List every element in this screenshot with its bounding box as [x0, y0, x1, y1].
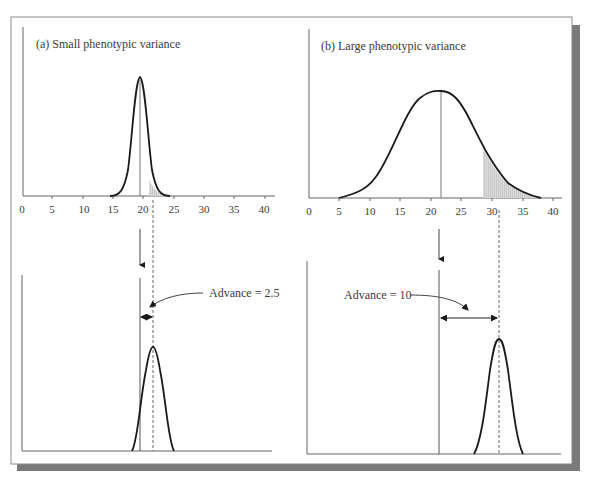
panel-b-title: (b) Large phenotypic variance	[321, 39, 466, 53]
svg-text:20: 20	[426, 205, 438, 217]
svg-text:40: 40	[548, 205, 560, 217]
svg-text:10: 10	[79, 203, 91, 215]
svg-text:30: 30	[487, 205, 499, 217]
advance-label: Advance = 10	[344, 288, 411, 302]
svg-text:5: 5	[336, 205, 342, 217]
advance-label: Advance = 2.5	[209, 286, 279, 300]
svg-text:35: 35	[518, 205, 530, 217]
svg-text:0: 0	[19, 203, 25, 215]
svg-text:40: 40	[259, 203, 271, 215]
svg-text:15: 15	[395, 205, 407, 217]
svg-text:30: 30	[199, 203, 211, 215]
frame-shadow-right	[572, 25, 580, 471]
svg-text:25: 25	[456, 205, 468, 217]
svg-text:25: 25	[169, 203, 181, 215]
svg-text:20: 20	[138, 203, 150, 215]
panel-a-title: (a) Small phenotypic variance	[36, 37, 180, 51]
svg-text:5: 5	[49, 203, 55, 215]
frame-shadow-bottom	[17, 464, 580, 471]
figure-frame	[11, 17, 572, 464]
svg-text:10: 10	[365, 205, 377, 217]
figure-canvas: 0 5 10 15 20 25 30 35 40 (a) Small pheno…	[0, 0, 589, 484]
svg-text:35: 35	[229, 203, 241, 215]
svg-text:15: 15	[108, 203, 120, 215]
figure: 0 5 10 15 20 25 30 35 40 (a) Small pheno…	[0, 0, 589, 484]
svg-text:0: 0	[306, 205, 312, 217]
